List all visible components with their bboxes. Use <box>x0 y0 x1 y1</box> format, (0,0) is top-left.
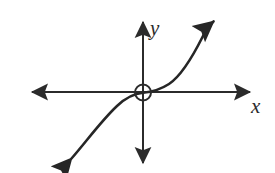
cubic-function-figure: y x <box>0 0 275 173</box>
y-axis-label: y <box>148 16 160 40</box>
x-axis-label: x <box>250 94 261 118</box>
graph-canvas: y x <box>0 0 275 173</box>
